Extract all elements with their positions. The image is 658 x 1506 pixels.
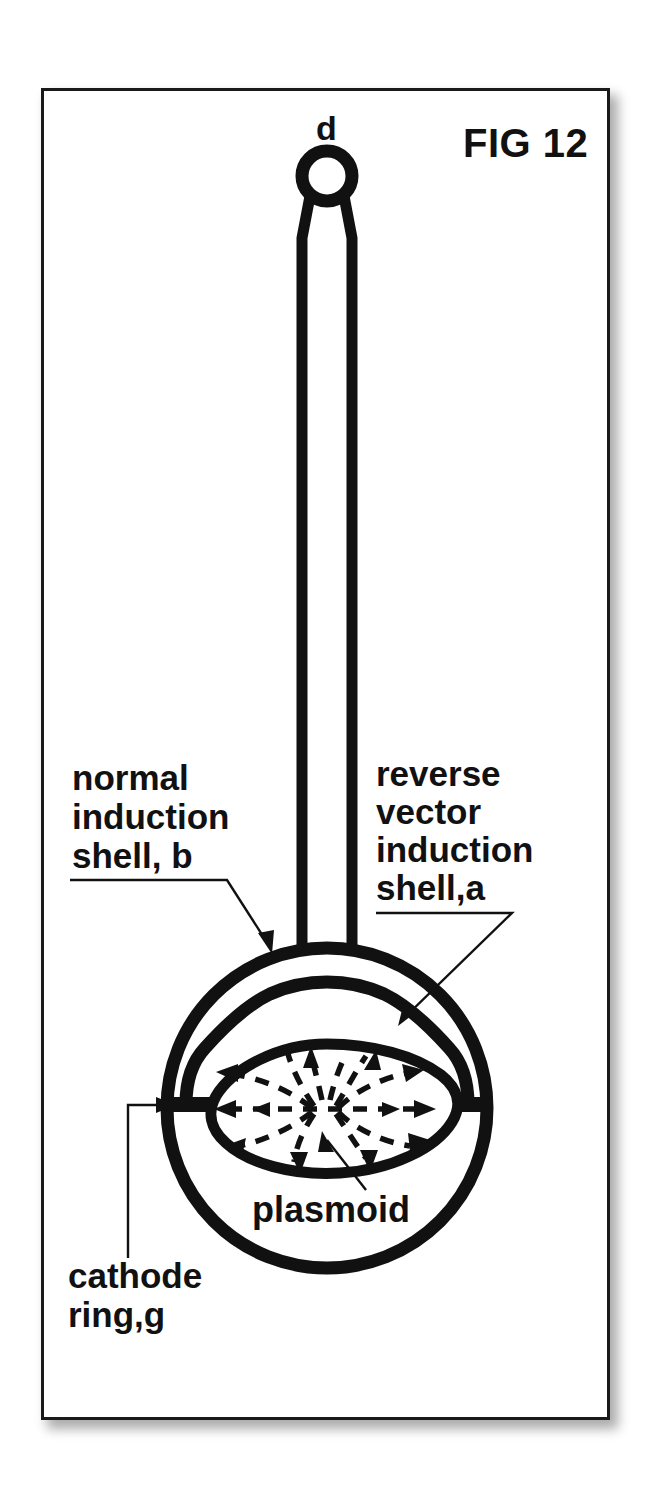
figure-plate-border bbox=[41, 88, 610, 1420]
figure-page: FIG 12 d bbox=[0, 0, 658, 1506]
